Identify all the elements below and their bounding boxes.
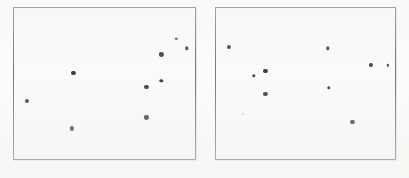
- scatter-point: [369, 63, 373, 67]
- right-plot-area: [216, 8, 395, 159]
- scatter-point: [242, 113, 244, 115]
- scatter-point: [25, 99, 29, 103]
- scatter-point: [327, 86, 330, 89]
- scatter-point: [71, 71, 75, 75]
- scatter-point: [144, 115, 148, 119]
- scatter-point: [144, 85, 148, 89]
- scatter-point: [227, 44, 231, 48]
- scatter-point: [70, 126, 74, 130]
- right-scatter-panel: [215, 7, 396, 160]
- scatter-point: [252, 74, 255, 77]
- scatter-point: [263, 69, 267, 73]
- scatter-point: [350, 119, 354, 123]
- scatter-point: [185, 47, 188, 50]
- scatter-figure: [0, 0, 409, 178]
- scatter-point: [387, 64, 389, 66]
- left-scatter-panel: [13, 7, 196, 160]
- scatter-point: [326, 47, 329, 50]
- scatter-point: [263, 92, 267, 96]
- scatter-point: [159, 52, 163, 56]
- left-plot-area: [14, 8, 195, 159]
- scatter-point: [175, 37, 177, 39]
- scatter-point: [160, 79, 163, 82]
